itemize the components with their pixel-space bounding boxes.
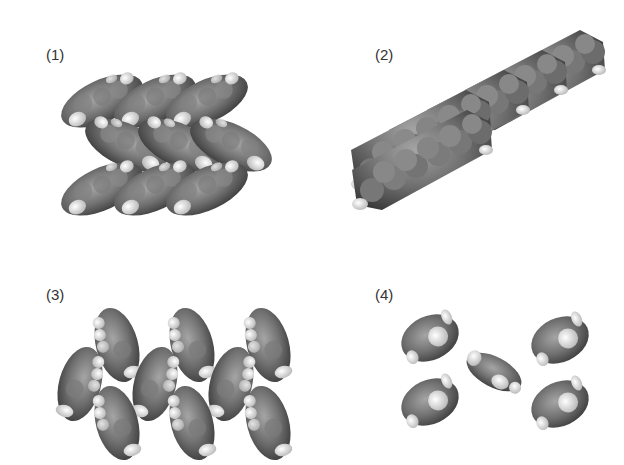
panel-1-packing (53, 63, 280, 226)
panel-4-packing (394, 305, 597, 436)
molecular-packing-figure (0, 0, 624, 465)
panel-2-stack (351, 30, 606, 210)
panel-3-packing (50, 303, 298, 465)
